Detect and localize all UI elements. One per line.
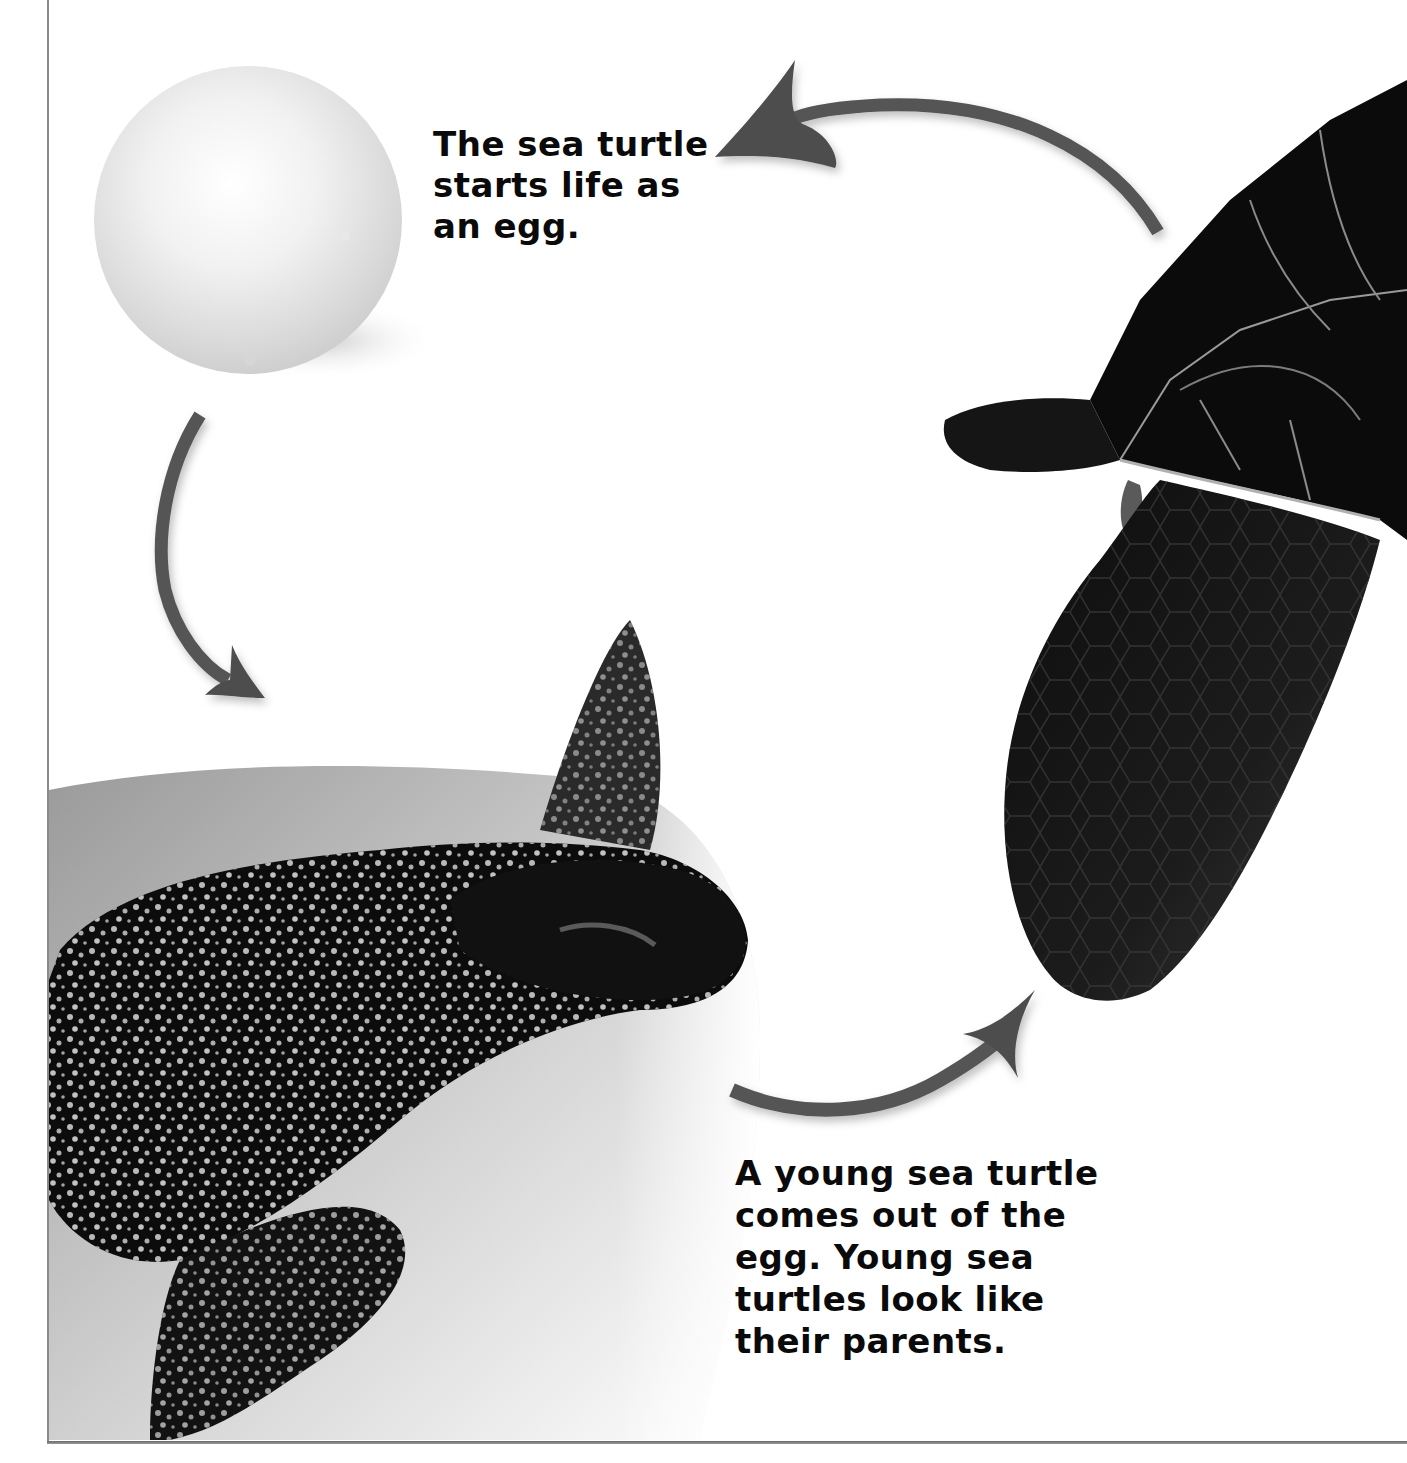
curved-arrow-left-icon [715,60,1158,232]
hatchling-caption: A young sea turtle comes out of the egg.… [735,1152,1095,1362]
caption-line: A young sea turtle [735,1152,1095,1194]
caption-line: egg. Young sea [735,1236,1095,1278]
curved-arrow-up-right-icon [732,990,1035,1110]
caption-line: their parents. [735,1320,1095,1362]
book-page: The sea turtle starts life as an egg. A … [0,0,1407,1463]
caption-line: comes out of the [735,1194,1095,1236]
adult-turtle-image [944,80,1407,1001]
page-left-border [47,0,49,1443]
caption-line: starts life as [433,165,733,206]
caption-line: an egg. [433,206,733,247]
hatchling-image [49,620,760,1440]
egg-image [94,66,440,380]
page-bottom-border [47,1441,1407,1444]
caption-line: turtles look like [735,1278,1095,1320]
caption-line: The sea turtle [433,124,733,165]
curved-arrow-down-icon [161,415,265,698]
egg-caption: The sea turtle starts life as an egg. [433,124,733,247]
